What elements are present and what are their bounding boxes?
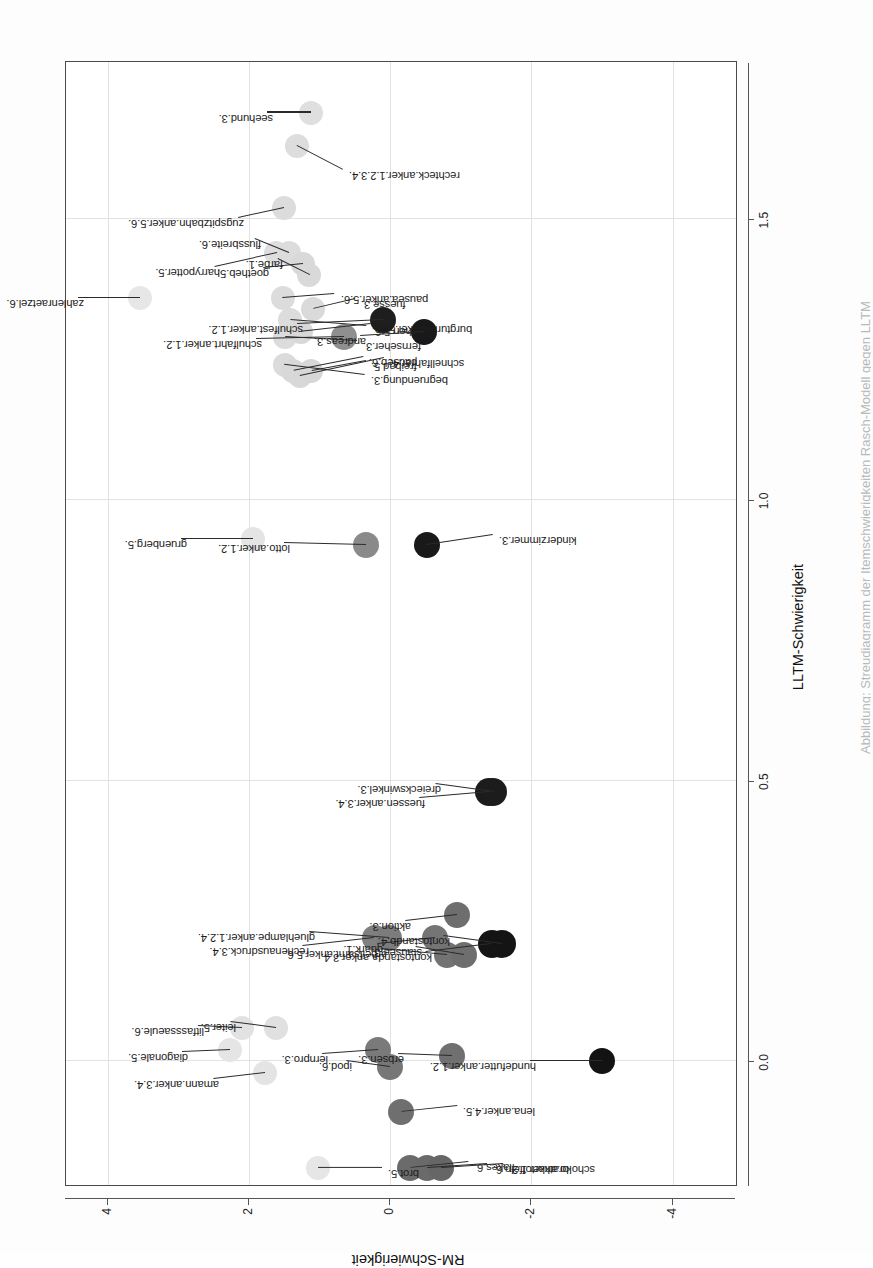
point-label: ipod.6.	[320, 1061, 353, 1073]
point-label: fuesse.3.	[361, 299, 406, 311]
y-axis-tick-label: 4	[100, 1208, 114, 1232]
data-point	[589, 1048, 615, 1074]
point-label: flussbreite.6.	[199, 239, 261, 251]
data-point	[306, 1156, 330, 1180]
point-label: kontostanda.anker.3.4.	[321, 952, 432, 964]
y-axis-tick-label: -4	[665, 1208, 679, 1232]
point-label: gruenberg.5.	[125, 539, 187, 551]
label-leader-line	[297, 145, 343, 170]
gridline-horizontal	[108, 62, 109, 1185]
y-axis-tick-label: -2	[523, 1208, 537, 1232]
x-axis-tick	[748, 1061, 754, 1062]
label-leader-line	[318, 1167, 382, 1168]
y-axis-tick-label: 2	[241, 1208, 255, 1232]
data-point	[428, 1155, 454, 1181]
label-leader-line	[181, 538, 253, 539]
gridline-horizontal	[673, 62, 674, 1185]
point-label: lotto.anker.1.2.	[218, 543, 290, 555]
gridline-vertical	[66, 499, 736, 500]
data-point	[128, 286, 152, 310]
point-label: seehund.3.	[219, 113, 273, 125]
point-label: schulfahrt.anker.1.2.	[163, 339, 262, 351]
gridline-horizontal	[249, 62, 250, 1185]
x-axis-label: LLTM-Schwierigkeit	[790, 0, 806, 1254]
label-leader-line	[78, 297, 140, 298]
point-label: fernseher.3.	[363, 341, 421, 353]
point-label: schulfest.anker.1.2.	[209, 324, 303, 336]
point-label: kontostandb.4.	[378, 936, 450, 948]
point-label: dreieckswinkel.3.	[358, 784, 442, 796]
y-axis-tick	[107, 1199, 108, 1205]
data-point	[488, 930, 516, 958]
gridline-horizontal	[390, 62, 391, 1185]
point-label: rechteck.anker.1.2.3.4.	[349, 170, 460, 182]
x-axis-tick-label: 1.5	[757, 212, 771, 229]
point-label: harrypotter.5.	[156, 267, 221, 279]
figure-caption-text: Abbildung: Streudiagramm der Itemschwier…	[858, 40, 872, 1028]
plot-panel: zahlenraetzel.6.gruenberg.5.harrypotter.…	[65, 61, 737, 1186]
y-axis-tick-label: 0	[382, 1208, 396, 1232]
y-axis-tick	[530, 1199, 531, 1205]
point-label: zugspitzbahn.anker.5.6.	[128, 218, 244, 230]
point-label: zahlenraetzel.6.	[7, 298, 84, 310]
x-axis-tick-label: 0.0	[757, 1054, 771, 1071]
y-axis-tick	[672, 1199, 673, 1205]
y-axis-tick	[389, 1199, 390, 1205]
point-label: schoko.anker.1.2.	[509, 1164, 595, 1176]
data-point	[299, 101, 323, 125]
point-label: leiter.5.	[201, 1022, 236, 1034]
point-label: gluehlampe.anker.1.2.4.	[198, 932, 315, 944]
y-axis-label: RM-Schwierigkeit	[352, 1252, 465, 1268]
label-leader-line	[267, 111, 311, 112]
point-label: amann.anker.3.4.	[134, 1079, 219, 1091]
y-axis-line	[65, 1198, 735, 1199]
point-label: fuessen.anker.3.4.	[336, 798, 426, 810]
point-label: begruendung.3.	[371, 375, 448, 387]
gridline-horizontal	[531, 62, 532, 1185]
x-axis-tick-label: 0.5	[757, 773, 771, 790]
figure-caption: Abbildung: Streudiagramm der Itemschwier…	[845, 40, 871, 1040]
point-label: erbsen.3.	[359, 1054, 405, 1066]
point-label: kinderzimmer.3.	[499, 535, 576, 547]
point-label: freibad.5.	[371, 361, 417, 373]
x-axis-tick	[748, 219, 754, 220]
y-axis-tick	[248, 1199, 249, 1205]
point-label: andreas.3.	[314, 336, 366, 348]
point-label: lena.anker.4.5.	[463, 1106, 535, 1118]
x-axis-tick-label: 1.0	[757, 493, 771, 510]
point-label: hundefutter.anker.1.2.	[430, 1061, 536, 1073]
point-label: aktion.3.	[370, 921, 411, 933]
label-leader-line	[530, 1060, 602, 1061]
data-point	[297, 263, 321, 287]
point-label: litfasssaeule.6.	[132, 1026, 204, 1038]
x-axis-tick	[748, 781, 754, 782]
gridline-vertical	[66, 780, 736, 781]
x-axis-tick	[748, 500, 754, 501]
x-axis-line	[748, 63, 749, 1186]
point-label: brot.5.	[388, 1168, 419, 1180]
point-label: diagonale.5.	[128, 1052, 188, 1064]
point-label: farbe.1.	[246, 259, 283, 271]
